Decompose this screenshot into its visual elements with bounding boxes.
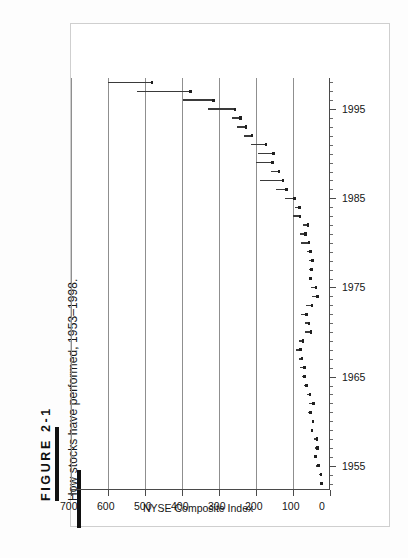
range-bar-low-cap bbox=[278, 170, 281, 173]
y-axis-tick-label: 100 bbox=[282, 500, 300, 512]
range-bar-low-cap bbox=[305, 384, 308, 387]
range-bar-low-cap bbox=[304, 232, 307, 235]
range-bar-low-cap bbox=[315, 286, 318, 289]
y-axis-tick bbox=[71, 490, 72, 496]
x-axis-minor-tick bbox=[330, 305, 333, 306]
y-axis-tick bbox=[256, 490, 257, 496]
range-bar-low-cap bbox=[308, 241, 311, 244]
range-bar-low-cap bbox=[309, 393, 312, 396]
x-axis-minor-tick bbox=[330, 359, 333, 360]
range-bar-low-cap bbox=[271, 161, 274, 164]
range-bar-low-cap bbox=[316, 446, 319, 449]
x-axis-minor-tick bbox=[330, 484, 333, 485]
x-axis-minor-tick bbox=[330, 118, 333, 119]
gridline bbox=[256, 78, 257, 489]
x-axis-minor-tick bbox=[330, 403, 333, 404]
gridline bbox=[293, 78, 294, 489]
x-axis-minor-tick bbox=[330, 430, 333, 431]
x-axis-minor-tick bbox=[330, 136, 333, 137]
range-bar bbox=[183, 100, 214, 101]
gridline bbox=[108, 78, 109, 489]
x-axis-minor-tick bbox=[330, 332, 333, 333]
range-bar-low-cap bbox=[311, 304, 314, 307]
x-axis-minor-tick bbox=[330, 439, 333, 440]
x-axis-major-tick bbox=[330, 198, 336, 199]
x-axis-minor-tick bbox=[330, 207, 333, 208]
range-bar bbox=[260, 180, 283, 181]
x-axis-minor-tick bbox=[330, 82, 333, 83]
x-axis-minor-tick bbox=[330, 368, 333, 369]
figure-page: FIGURE 2-1 How stocks have performed, 19… bbox=[0, 0, 408, 558]
range-bar-low-cap bbox=[303, 366, 306, 369]
range-bar-low-cap bbox=[309, 277, 312, 280]
range-bar-low-cap bbox=[307, 223, 310, 226]
y-axis-tick bbox=[182, 490, 183, 496]
x-axis-minor-tick bbox=[330, 243, 333, 244]
y-axis-tick bbox=[108, 490, 109, 496]
range-bar-low-cap bbox=[301, 357, 304, 360]
range-bar-low-cap bbox=[299, 348, 302, 351]
y-axis-tick-label: 700 bbox=[60, 500, 78, 512]
x-axis-minor-tick bbox=[330, 180, 333, 181]
y-axis-tick bbox=[293, 490, 294, 496]
x-axis-minor-tick bbox=[330, 279, 333, 280]
x-axis-minor-tick bbox=[330, 225, 333, 226]
x-axis-minor-tick bbox=[330, 252, 333, 253]
range-bar bbox=[137, 91, 191, 92]
range-bar-low-cap bbox=[309, 250, 312, 253]
range-bar-low-cap bbox=[299, 215, 302, 218]
y-axis-tick bbox=[330, 490, 331, 496]
range-bar-low-cap bbox=[310, 268, 313, 271]
range-bar-low-cap bbox=[317, 464, 320, 467]
x-axis-minor-tick bbox=[330, 91, 333, 92]
range-bar-low-cap bbox=[282, 179, 285, 182]
range-bar-low-cap bbox=[312, 402, 315, 405]
x-axis-minor-tick bbox=[330, 270, 333, 271]
x-axis-tick-label: 1985 bbox=[342, 192, 365, 204]
range-bar-low-cap bbox=[310, 330, 313, 333]
x-axis-minor-tick bbox=[330, 314, 333, 315]
range-bar-low-cap bbox=[316, 295, 319, 298]
x-axis-minor-tick bbox=[330, 350, 333, 351]
y-axis-tick-label: 0 bbox=[319, 500, 325, 512]
x-axis-tick-label: 1995 bbox=[342, 103, 365, 115]
range-bar-low-cap bbox=[265, 143, 268, 146]
gridline bbox=[145, 78, 146, 489]
x-axis-minor-tick bbox=[330, 394, 333, 395]
x-axis-major-tick bbox=[330, 287, 336, 288]
x-axis-minor-tick bbox=[330, 386, 333, 387]
range-bar-low-cap bbox=[212, 99, 215, 102]
range-bar-low-cap bbox=[239, 116, 242, 119]
x-axis-minor-tick bbox=[330, 475, 333, 476]
x-axis-minor-tick bbox=[330, 234, 333, 235]
range-bar-low-cap bbox=[308, 322, 311, 325]
range-bar-low-cap bbox=[293, 197, 296, 200]
x-axis-major-tick bbox=[330, 466, 336, 467]
range-bar-low-cap bbox=[189, 90, 192, 93]
gridline bbox=[219, 78, 220, 489]
x-axis-minor-tick bbox=[330, 261, 333, 262]
y-axis-tick bbox=[219, 490, 220, 496]
x-axis-minor-tick bbox=[330, 189, 333, 190]
x-axis-minor-tick bbox=[330, 154, 333, 155]
y-axis-tick-label: 600 bbox=[97, 500, 115, 512]
x-axis-tick-label: 1955 bbox=[342, 460, 365, 472]
x-axis-minor-tick bbox=[330, 163, 333, 164]
range-bar-low-cap bbox=[245, 125, 248, 128]
x-axis-minor-tick bbox=[330, 448, 333, 449]
range-bar-low-cap bbox=[298, 206, 301, 209]
range-bar-low-cap bbox=[320, 482, 323, 485]
range-bar-low-cap bbox=[311, 259, 314, 262]
chart-canvas: 1955196519751985199501002003004005006007… bbox=[61, 44, 347, 514]
x-axis-minor-tick bbox=[330, 421, 333, 422]
x-axis-minor-tick bbox=[330, 296, 333, 297]
plot-area bbox=[71, 78, 330, 490]
range-bar-low-cap bbox=[311, 429, 314, 432]
range-bar-low-cap bbox=[303, 375, 306, 378]
y-axis-title: NYSE Composite Index bbox=[143, 502, 253, 514]
range-bar-low-cap bbox=[285, 188, 288, 191]
range-bar-low-cap bbox=[151, 81, 154, 84]
x-axis-minor-tick bbox=[330, 172, 333, 173]
gridline bbox=[182, 78, 183, 489]
x-axis-major-tick bbox=[330, 109, 336, 110]
